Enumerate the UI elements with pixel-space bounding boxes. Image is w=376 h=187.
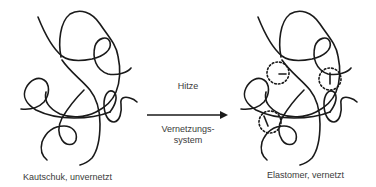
- label-heat: Hitze: [148, 81, 228, 92]
- uncrosslinked-rubber-chains: [21, 11, 137, 165]
- crosslinked-elastomer-chains: [241, 11, 357, 165]
- process-arrow: [147, 111, 228, 119]
- label-crosslinking-system-line2: system: [148, 135, 228, 146]
- vulcanization-diagram: [0, 0, 376, 187]
- label-crosslinking-system: Vernetzungs- system: [148, 124, 228, 146]
- caption-crosslinked: Elastomer, vernetzt: [267, 170, 344, 181]
- caption-uncrosslinked: Kautschuk, unvernetzt: [23, 172, 112, 183]
- crosslink-markers: [259, 62, 341, 133]
- label-crosslinking-system-line1: Vernetzungs-: [148, 124, 228, 135]
